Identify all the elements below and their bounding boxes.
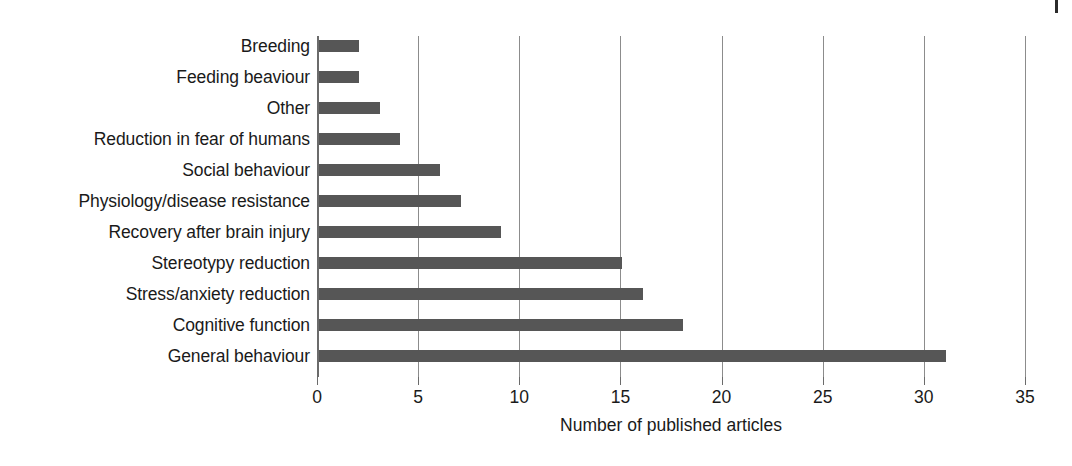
category-label: Recovery after brain injury (0, 222, 310, 242)
x-tick-label: 20 (692, 386, 752, 408)
bar-chart: BreedingFeeding beaviourOtherReduction i… (0, 0, 1072, 466)
bar (319, 288, 643, 300)
bar-row (317, 315, 1025, 348)
tick-mark-5 (418, 377, 419, 385)
bar (319, 257, 622, 269)
tick-mark-35 (1025, 377, 1026, 385)
bar-row (317, 67, 1025, 100)
x-tick-label: 35 (995, 386, 1055, 408)
category-label: Reduction in fear of humans (0, 129, 310, 149)
bar-row (317, 98, 1025, 131)
tick-mark-30 (924, 377, 925, 385)
bar-row (317, 36, 1025, 69)
bar (319, 226, 501, 238)
category-label: Feeding beaviour (0, 67, 310, 87)
plot-area (317, 36, 1025, 377)
bar (319, 133, 400, 145)
bar (319, 40, 359, 52)
x-axis-title: Number of published articles (317, 414, 1025, 436)
x-axis-tick-labels: 05101520253035 (317, 386, 1025, 410)
category-label: Breeding (0, 36, 310, 56)
bar-row (317, 222, 1025, 255)
x-axis-tick-marks (317, 377, 1025, 385)
bar-row (317, 129, 1025, 162)
tick-mark-20 (722, 377, 723, 385)
category-label: Physiology/disease resistance (0, 191, 310, 211)
figure-page: BreedingFeeding beaviourOtherReduction i… (0, 0, 1072, 466)
bar-row (317, 284, 1025, 317)
bar (319, 102, 380, 114)
category-label: Stereotypy reduction (0, 253, 310, 273)
bar-row (317, 191, 1025, 224)
category-label: General behaviour (0, 346, 310, 366)
tick-mark-0 (317, 377, 318, 385)
category-label: Stress/anxiety reduction (0, 284, 310, 304)
category-label: Social behaviour (0, 160, 310, 180)
x-tick-label: 30 (894, 386, 954, 408)
x-tick-label: 0 (287, 386, 347, 408)
tick-mark-25 (823, 377, 824, 385)
bar (319, 350, 946, 362)
bar (319, 71, 359, 83)
bar (319, 319, 683, 331)
category-label: Other (0, 98, 310, 118)
bar-row (317, 346, 1025, 379)
bar (319, 195, 461, 207)
x-tick-label: 25 (793, 386, 853, 408)
category-axis-labels: BreedingFeeding beaviourOtherReduction i… (0, 36, 310, 377)
bar-row (317, 253, 1025, 286)
gridline-35 (1025, 36, 1026, 377)
tick-mark-15 (620, 377, 621, 385)
x-tick-label: 10 (489, 386, 549, 408)
x-tick-label: 5 (388, 386, 448, 408)
category-label: Cognitive function (0, 315, 310, 335)
bar-row (317, 160, 1025, 193)
bar-series (317, 36, 1025, 377)
x-tick-label: 15 (590, 386, 650, 408)
tick-mark-10 (519, 377, 520, 385)
bar (319, 164, 440, 176)
